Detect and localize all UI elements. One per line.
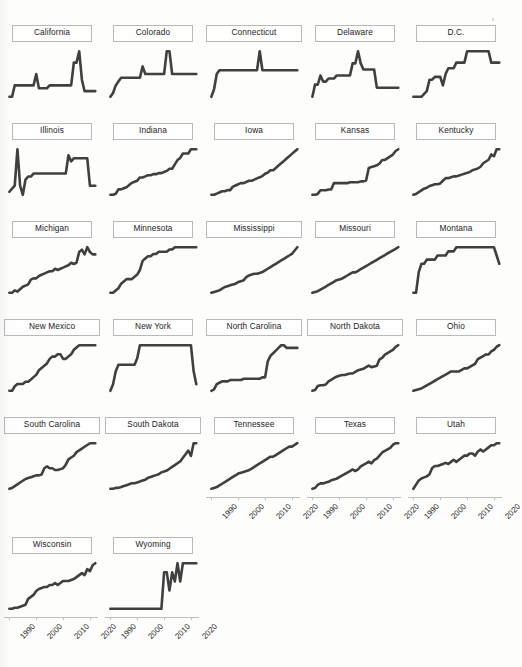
facet-title: Indiana xyxy=(113,123,193,140)
tick-label: 2010 xyxy=(476,502,495,521)
series-line xyxy=(9,345,95,391)
facet-plot-area xyxy=(408,239,502,301)
x-axis-ticks: 1990200020102020 xyxy=(408,497,502,527)
x-axis-ticks: 1990200020102020 xyxy=(105,617,199,647)
facet-plot-area xyxy=(206,141,300,203)
facet-title: Ohio xyxy=(416,319,496,336)
tick-label: 2000 xyxy=(348,502,367,521)
tick-label: 1990 xyxy=(221,502,240,521)
facet-plot-area xyxy=(307,239,401,301)
facet-title: D.C. xyxy=(416,25,496,42)
series-line xyxy=(312,345,398,391)
facet-title: Wyoming xyxy=(113,537,193,554)
tick-mark xyxy=(265,497,266,500)
tick-mark xyxy=(440,497,441,500)
series-line xyxy=(110,443,196,489)
facet-plot-area xyxy=(4,43,98,105)
facet-title: Missouri xyxy=(315,221,395,238)
facet-title: North Carolina xyxy=(206,319,302,336)
series-line xyxy=(110,247,196,293)
facet-title: Michigan xyxy=(12,221,92,238)
tick-mark xyxy=(110,617,111,620)
series-line xyxy=(110,345,196,391)
facet-title: Delaware xyxy=(315,25,395,42)
facet-plot-area xyxy=(105,435,199,497)
facet-title: Colorado xyxy=(113,25,193,42)
facet-plot-area xyxy=(206,239,300,301)
series-line xyxy=(312,51,398,97)
tick-label: 2020 xyxy=(503,502,522,521)
tick-label: 2010 xyxy=(274,502,293,521)
facet-plot-area xyxy=(206,435,300,497)
facet-plot-area xyxy=(307,337,401,399)
facet-title: Utah xyxy=(416,417,496,434)
tick-label: 2010 xyxy=(72,622,91,641)
tick-mark xyxy=(137,617,138,620)
series-line xyxy=(312,247,398,293)
facet-plot-area xyxy=(105,43,199,105)
tick-mark xyxy=(191,617,192,620)
facet-plot-area xyxy=(4,555,98,617)
series-line xyxy=(413,247,499,293)
facet-plot-area xyxy=(408,435,502,497)
facet-title: Minnesota xyxy=(113,221,193,238)
tick-mark xyxy=(494,497,495,500)
tick-label: 2000 xyxy=(247,502,266,521)
facet-title: South Carolina xyxy=(4,417,100,434)
facet-plot-area xyxy=(408,141,502,203)
series-line xyxy=(211,247,297,293)
facet-title: Iowa xyxy=(214,123,294,140)
tick-mark xyxy=(292,497,293,500)
series-line xyxy=(110,149,196,195)
tick-mark xyxy=(393,497,394,500)
tick-mark xyxy=(164,617,165,620)
facet-title: South Dakota xyxy=(105,417,201,434)
series-line xyxy=(9,443,95,489)
facet-title: Mississippi xyxy=(206,221,302,238)
facet-title: New York xyxy=(113,319,193,336)
facet-plot-area xyxy=(408,337,502,399)
facet-title: Montana xyxy=(416,221,496,238)
series-line xyxy=(413,345,499,391)
facet-title: Kansas xyxy=(315,123,395,140)
tick-mark xyxy=(9,617,10,620)
x-axis-ticks: 1990200020102020 xyxy=(307,497,401,527)
tick-label: 1990 xyxy=(19,622,38,641)
x-axis-ticks: 1990200020102020 xyxy=(206,497,300,527)
tick-mark xyxy=(413,497,414,500)
facet-title: Wisconsin xyxy=(12,537,92,554)
x-axis-ticks: 1990200020102020 xyxy=(4,617,98,647)
series-line xyxy=(9,149,95,195)
series-line xyxy=(211,149,297,195)
facet-plot-area xyxy=(307,435,401,497)
facet-plot-area xyxy=(4,435,98,497)
facet-title: Kentucky xyxy=(416,123,496,140)
tick-label: 2010 xyxy=(173,622,192,641)
facet-title: North Dakota xyxy=(307,319,403,336)
tick-mark xyxy=(63,617,64,620)
facet-plot-area xyxy=(4,141,98,203)
series-line xyxy=(9,563,95,609)
series-line xyxy=(110,563,196,609)
tick-mark xyxy=(366,497,367,500)
facet-plot-area xyxy=(307,141,401,203)
facet-title: Connecticut xyxy=(206,25,302,42)
tick-mark xyxy=(36,617,37,620)
tick-mark xyxy=(467,497,468,500)
series-line xyxy=(211,345,297,391)
facet-plot-area xyxy=(4,239,98,301)
facet-plot-area xyxy=(105,141,199,203)
tick-label: 2000 xyxy=(45,622,64,641)
tick-label: 1990 xyxy=(120,622,139,641)
facet-title: New Mexico xyxy=(4,319,100,336)
facet-plot-area xyxy=(4,337,98,399)
series-line xyxy=(110,51,196,97)
tick-label: 2020 xyxy=(200,622,219,641)
series-line xyxy=(9,51,95,97)
tick-label: 2010 xyxy=(375,502,394,521)
facet-plot-area xyxy=(105,337,199,399)
series-line xyxy=(211,443,297,489)
scan-speck xyxy=(492,18,494,21)
facet-plot-area xyxy=(206,337,300,399)
